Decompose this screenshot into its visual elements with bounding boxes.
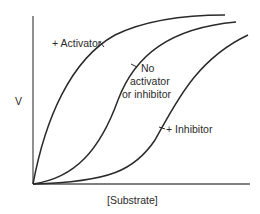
no-effector-leader (131, 64, 137, 67)
no-effector-label-line2: activator (130, 75, 170, 87)
inhibitor-curve (33, 35, 248, 184)
x-axis-label: [Substrate] (107, 194, 158, 206)
inhibitor-label: + Inhibitor (166, 123, 213, 135)
no-effector-label-line1: No (141, 62, 155, 74)
no-effector-label-line3: or inhibitor (122, 88, 172, 100)
enzyme-kinetics-diagram: + Activator No activator or inhibitor + … (0, 0, 260, 214)
activator-label: + Activator (52, 37, 102, 49)
y-axis-label: V (15, 95, 22, 107)
